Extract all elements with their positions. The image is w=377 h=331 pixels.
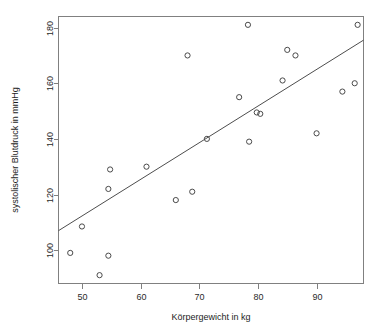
data-point [314,131,319,136]
data-point [237,95,242,100]
x-axis-ticks: 5060708090 [77,284,322,302]
y-tick-label: 120 [45,188,55,203]
data-point [340,89,345,94]
data-point [285,47,290,52]
x-tick-label: 50 [77,292,87,302]
plot-frame [59,17,364,284]
x-tick-label: 90 [312,292,322,302]
y-axis-title: systolischer Blutdruck in mmHg [10,87,20,213]
y-axis-ticks: 100120140160180 [45,21,59,258]
data-point [79,224,84,229]
data-point [97,273,102,278]
data-point [280,78,285,83]
data-point [355,22,360,27]
x-tick-label: 70 [194,292,204,302]
y-tick-label: 160 [45,76,55,91]
y-tick-label: 180 [45,21,55,36]
data-point [68,250,73,255]
scatter-plot-figure: 100120140160180 5060708090 Körpergewicht… [0,0,377,331]
data-point [108,167,113,172]
data-point [247,139,252,144]
y-tick-label: 140 [45,132,55,147]
data-point [293,53,298,58]
data-point [144,164,149,169]
x-axis-title: Körpergewicht in kg [171,312,250,322]
data-point [352,81,357,86]
data-point [190,189,195,194]
data-point [173,197,178,202]
data-points-group [68,22,361,278]
y-tick-label: 100 [45,243,55,258]
data-point [106,186,111,191]
data-point [106,253,111,258]
data-point [185,53,190,58]
data-point [245,22,250,27]
chart-canvas: 100120140160180 5060708090 Körpergewicht… [0,0,377,331]
x-tick-label: 80 [253,292,263,302]
x-tick-label: 60 [136,292,146,302]
